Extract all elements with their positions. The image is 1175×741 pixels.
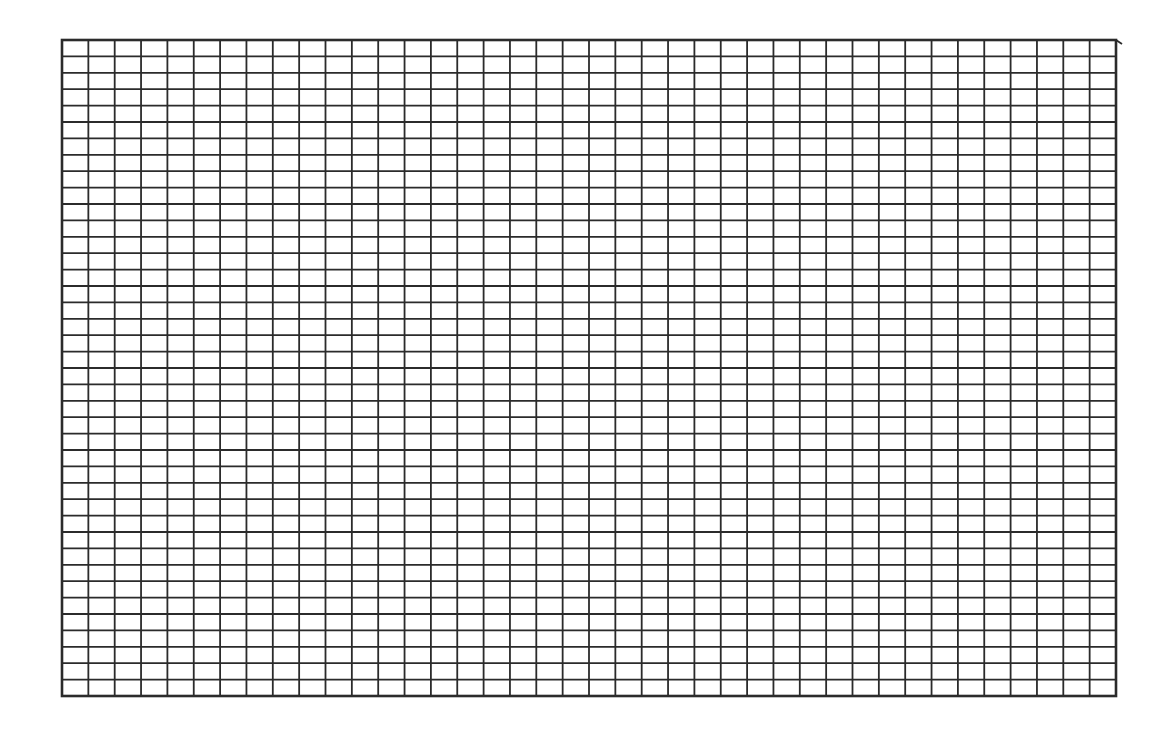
- grid-lines: [62, 40, 1116, 696]
- grid-paper: [0, 0, 1175, 741]
